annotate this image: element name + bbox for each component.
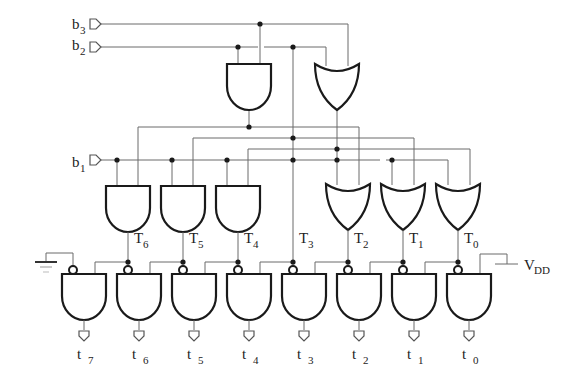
- svg-text:4: 4: [253, 238, 259, 250]
- svg-text:4: 4: [253, 354, 259, 366]
- svg-text:t: t: [462, 346, 467, 362]
- inversion-bubbles: [69, 266, 462, 274]
- input-b1: b 1: [72, 154, 101, 174]
- svg-text:T: T: [299, 230, 308, 246]
- or-gate-T0: [436, 184, 480, 230]
- input-subscript: 1: [80, 162, 86, 174]
- vdd-subscript: DD: [534, 264, 550, 276]
- svg-text:T: T: [244, 230, 253, 246]
- output-labels: t7 t6 t5 t4 t3 t2 t1 t0: [77, 346, 479, 366]
- and-gate-t2: [337, 274, 381, 320]
- input-label: b: [72, 16, 80, 32]
- svg-text:t: t: [132, 346, 137, 362]
- svg-text:1: 1: [418, 238, 424, 250]
- svg-text:0: 0: [473, 238, 479, 250]
- or-gate-top: [315, 64, 359, 110]
- and-gate-T5: [161, 186, 205, 232]
- svg-text:0: 0: [473, 354, 479, 366]
- svg-text:2: 2: [363, 354, 369, 366]
- input-b3: b 3: [72, 16, 101, 36]
- vdd-supply: V DD: [524, 257, 550, 276]
- input-subscript: 2: [80, 45, 86, 57]
- svg-text:5: 5: [198, 354, 204, 366]
- or-gate-T2: [326, 184, 370, 230]
- svg-text:t: t: [187, 346, 192, 362]
- output-gates: [62, 274, 491, 320]
- or-gate-T1: [381, 184, 425, 230]
- input-label: b: [72, 154, 80, 170]
- svg-text:T: T: [134, 230, 143, 246]
- junction-dots: [114, 21, 460, 264]
- svg-text:3: 3: [308, 354, 314, 366]
- svg-text:T: T: [189, 230, 198, 246]
- and-gate-T6: [106, 186, 150, 232]
- and-gate-top: [227, 64, 271, 110]
- and-gate-t5: [172, 274, 216, 320]
- and-gate-t3: [282, 274, 326, 320]
- svg-text:3: 3: [308, 238, 314, 250]
- svg-text:5: 5: [198, 238, 204, 250]
- input-subscript: 3: [80, 24, 86, 36]
- svg-text:1: 1: [418, 354, 424, 366]
- and-gate-T4: [216, 186, 260, 232]
- svg-text:6: 6: [143, 354, 149, 366]
- and-gate-t7: [62, 274, 106, 320]
- svg-text:T: T: [409, 230, 418, 246]
- svg-text:6: 6: [143, 238, 149, 250]
- svg-text:7: 7: [88, 354, 94, 366]
- and-gate-t4: [227, 274, 271, 320]
- circuit-diagram: b 3 b 2 b 1: [0, 0, 578, 389]
- svg-text:T: T: [354, 230, 363, 246]
- and-gate-t1: [392, 274, 436, 320]
- svg-text:2: 2: [363, 238, 369, 250]
- svg-text:t: t: [407, 346, 412, 362]
- svg-text:T: T: [464, 230, 473, 246]
- and-gate-t0: [447, 274, 491, 320]
- intermediate-labels: T6 T5 T4 T3 T2 T1 T0: [134, 230, 479, 250]
- output-pins: [79, 320, 474, 341]
- svg-text:t: t: [242, 346, 247, 362]
- and-gate-t6: [117, 274, 161, 320]
- svg-text:t: t: [352, 346, 357, 362]
- svg-text:t: t: [297, 346, 302, 362]
- wires-bus: [101, 127, 470, 186]
- input-b2: b 2: [72, 37, 101, 57]
- svg-text:t: t: [77, 346, 82, 362]
- input-label: b: [72, 37, 80, 53]
- wires-bottom: [46, 253, 518, 274]
- ground-icon: [35, 262, 57, 272]
